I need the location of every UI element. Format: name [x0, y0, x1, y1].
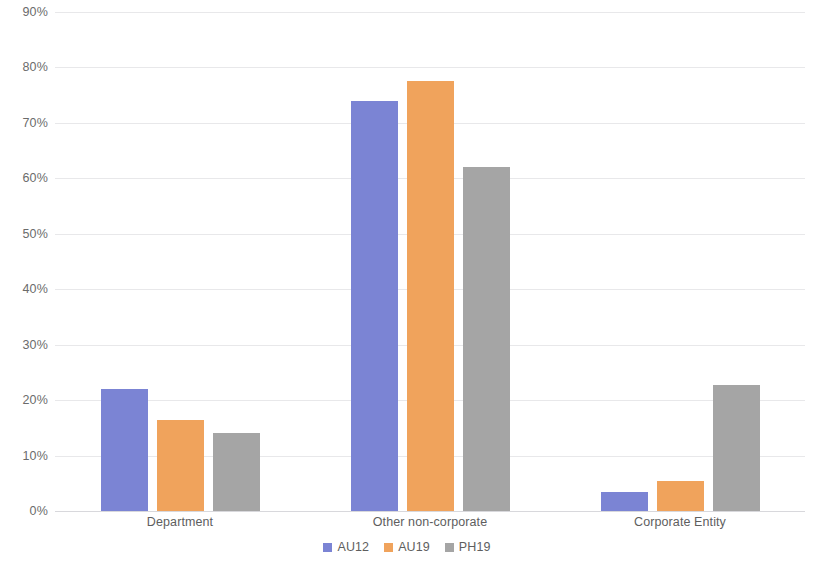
y-tick-label: 80%: [2, 61, 48, 74]
chart-legend: AU12AU19PH19: [0, 541, 814, 554]
legend-label: PH19: [459, 541, 491, 554]
x-tick-label: Other non-corporate: [373, 516, 487, 529]
bars-layer: [55, 12, 805, 511]
y-tick-label: 50%: [2, 228, 48, 241]
y-tick-label: 30%: [2, 338, 48, 351]
bar-ph19-corporate-entity: [713, 385, 760, 511]
plot-area: [55, 12, 805, 511]
bar-au12-corporate-entity: [601, 492, 648, 511]
gridline: [55, 511, 805, 512]
y-axis: 0%10%20%30%40%50%60%70%80%90%: [0, 12, 48, 511]
legend-item-au19[interactable]: AU19: [384, 541, 430, 554]
legend-label: AU19: [398, 541, 430, 554]
bar-ph19-other-non-corporate: [463, 167, 510, 511]
x-tick-label: Department: [147, 516, 213, 529]
legend-swatch-icon: [384, 543, 393, 552]
bar-au19-other-non-corporate: [407, 81, 454, 511]
y-tick-label: 20%: [2, 394, 48, 407]
legend-swatch-icon: [323, 543, 332, 552]
bar-au19-corporate-entity: [657, 481, 704, 511]
legend-item-au12[interactable]: AU12: [323, 541, 369, 554]
y-tick-label: 90%: [2, 6, 48, 19]
bar-au12-department: [101, 389, 148, 511]
bar-chart: 0%10%20%30%40%50%60%70%80%90% Department…: [0, 0, 814, 567]
legend-label: AU12: [337, 541, 369, 554]
y-tick-label: 40%: [2, 283, 48, 296]
x-tick-label: Corporate Entity: [634, 516, 726, 529]
legend-item-ph19[interactable]: PH19: [445, 541, 491, 554]
legend-swatch-icon: [445, 543, 454, 552]
bar-au19-department: [157, 420, 204, 511]
y-tick-label: 0%: [2, 505, 48, 518]
y-tick-label: 60%: [2, 172, 48, 185]
y-tick-label: 10%: [2, 449, 48, 462]
bar-au12-other-non-corporate: [351, 101, 398, 511]
bar-ph19-department: [213, 433, 260, 511]
y-tick-label: 70%: [2, 117, 48, 130]
